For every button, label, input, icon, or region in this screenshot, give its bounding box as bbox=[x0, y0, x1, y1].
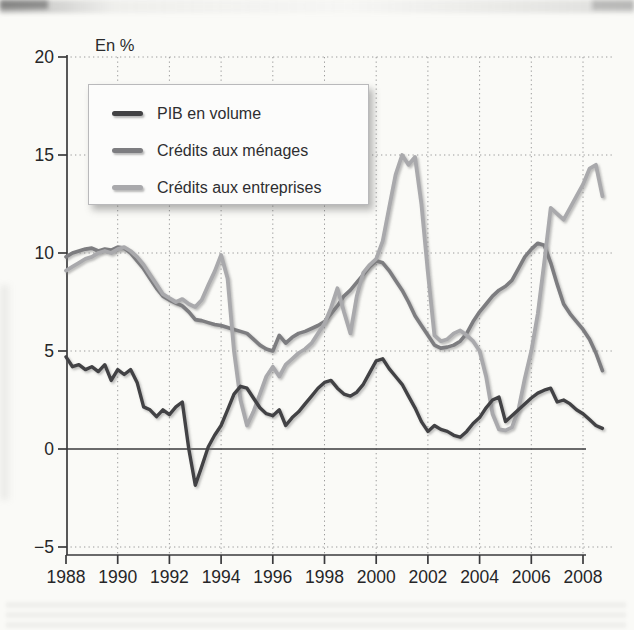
legend-item-pib: PIB en volume bbox=[89, 95, 368, 132]
y-axis-unit-label: En % bbox=[93, 36, 140, 56]
svg-text:2008: 2008 bbox=[564, 567, 603, 587]
legend-item-menages: Crédits aux ménages bbox=[89, 132, 368, 169]
svg-text:2006: 2006 bbox=[512, 567, 551, 587]
svg-text:2000: 2000 bbox=[357, 567, 396, 587]
entreprises-line-swatch-icon bbox=[112, 185, 143, 190]
legend-label-pib: PIB en volume bbox=[157, 105, 261, 123]
svg-text:15: 15 bbox=[35, 145, 54, 165]
svg-text:0: 0 bbox=[44, 439, 54, 459]
legend-label-menages: Crédits aux ménages bbox=[157, 142, 308, 160]
svg-text:1990: 1990 bbox=[98, 567, 137, 587]
svg-text:1998: 1998 bbox=[305, 567, 344, 587]
svg-text:5: 5 bbox=[44, 341, 54, 361]
legend-label-entreprises: Crédits aux entreprises bbox=[157, 179, 322, 197]
legend-box: PIB en volume Crédits aux ménages Crédit… bbox=[88, 84, 369, 205]
svg-text:1992: 1992 bbox=[150, 567, 189, 587]
svg-text:1988: 1988 bbox=[47, 567, 86, 587]
svg-text:1996: 1996 bbox=[253, 567, 292, 587]
svg-text:1994: 1994 bbox=[202, 567, 241, 587]
pib-line-swatch-icon bbox=[112, 111, 143, 116]
svg-text:10: 10 bbox=[35, 243, 55, 263]
menages-line-swatch-icon bbox=[112, 148, 143, 153]
svg-text:2004: 2004 bbox=[460, 567, 499, 587]
svg-text:2002: 2002 bbox=[408, 567, 447, 587]
svg-text:−5: −5 bbox=[34, 537, 54, 557]
legend-item-entreprises: Crédits aux entreprises bbox=[89, 169, 368, 206]
svg-text:20: 20 bbox=[35, 47, 55, 67]
